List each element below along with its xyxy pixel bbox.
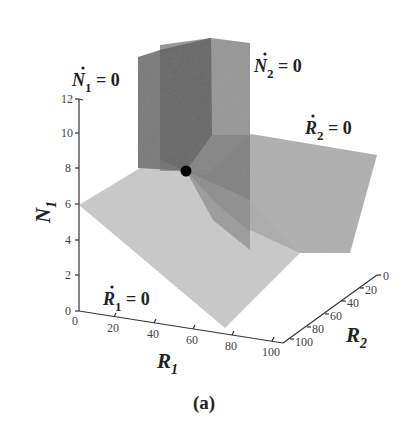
svg-text:R2 = 0: R2 = 0 [304, 118, 352, 143]
n1-tick-8: 8 [65, 161, 71, 175]
r1-tick-100: 100 [262, 345, 280, 359]
label-r2-eq: = 0 [324, 118, 352, 138]
dot-accent-n2 [263, 52, 266, 55]
r2-tick-20: 20 [365, 283, 377, 297]
n1-tick-6: 6 [65, 197, 71, 211]
r1-title-var: R [156, 349, 171, 373]
n1-tick-4: 4 [65, 233, 71, 247]
n1-title-sub: 1 [44, 201, 59, 208]
label-n1-nullcline: N1 = 0 [71, 66, 120, 95]
r1-title-sub: 1 [171, 362, 178, 377]
r1-axis-title: R1 [156, 349, 178, 377]
n1-axis-title: N1 [31, 201, 59, 224]
r1-tick-60: 60 [186, 333, 198, 347]
r2-tick-0: 0 [383, 269, 389, 283]
r1-tick-labels: 0 20 40 60 80 100 [72, 314, 280, 359]
n1-tick-2: 2 [65, 268, 71, 282]
r2-title-var: R [345, 323, 360, 347]
label-r2-nullcline: R2 = 0 [304, 114, 352, 143]
label-r2-var: R [304, 118, 317, 138]
n1-tick-0: 0 [65, 304, 71, 318]
svg-text:R1 = 0: R1 = 0 [102, 289, 150, 314]
n1-tick-labels: 0 2 4 6 8 10 12 [61, 92, 73, 318]
label-n1-eq: = 0 [92, 70, 120, 90]
label-r1-nullcline: R1 = 0 [102, 285, 150, 314]
r2-tick-100: 100 [295, 335, 313, 349]
planes-group [79, 38, 377, 328]
r2-axis-title: R2 [345, 323, 367, 351]
equilibrium-point [181, 166, 192, 177]
n1-tick-10: 10 [61, 126, 73, 140]
label-r1-var: R [102, 289, 115, 309]
svg-text:N1 = 0: N1 = 0 [71, 70, 120, 95]
r2-tick-labels: 100 80 60 40 20 0 [295, 269, 389, 349]
r1-tick-40: 40 [147, 327, 159, 341]
r2-title-sub: 2 [359, 336, 367, 351]
r2-tick-80: 80 [312, 322, 324, 336]
n1-tick-12: 12 [61, 92, 73, 106]
r2-tick-40: 40 [347, 296, 359, 310]
label-n2-eq: = 0 [274, 56, 302, 76]
panel-label: (a) [193, 392, 215, 414]
dot-accent-r1 [110, 285, 113, 288]
r1-tick-80: 80 [225, 339, 237, 353]
label-r1-eq: = 0 [122, 289, 150, 309]
label-n2-var: N [253, 56, 268, 76]
label-n1-var: N [71, 70, 86, 90]
r1-tick-0: 0 [72, 314, 78, 328]
label-n2-nullcline: N2 = 0 [253, 52, 302, 81]
n1-title-var: N [31, 207, 55, 224]
dot-accent-r2 [311, 114, 314, 117]
phase-space-figure: 0 2 4 6 8 10 12 N1 0 20 40 60 80 100 R1 [0, 0, 409, 426]
r2-tick-60: 60 [330, 309, 342, 323]
svg-text:N1: N1 [31, 201, 59, 224]
dot-accent-n1 [81, 66, 84, 69]
r1-tick-20: 20 [107, 321, 119, 335]
svg-text:N2 = 0: N2 = 0 [253, 56, 302, 81]
